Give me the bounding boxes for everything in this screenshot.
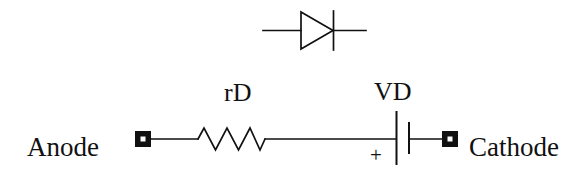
equivalent-circuit [136, 112, 458, 164]
voltage-source-vd [397, 112, 410, 164]
polarity-plus-label: + [370, 145, 382, 166]
anode-label: Anode [27, 134, 99, 161]
resistor-zigzag-rd [198, 128, 265, 150]
voltage-label-vd: VD [374, 79, 412, 105]
cathode-label: Cathode [469, 134, 559, 161]
anode-terminal-node [136, 132, 151, 147]
diode-triangle-icon [301, 12, 333, 49]
diode-equivalent-circuit-figure: Anode Cathode rD VD + [0, 0, 585, 172]
cathode-terminal-node [443, 132, 458, 147]
resistance-label-rd: rD [224, 80, 251, 106]
diode-symbol [263, 11, 366, 50]
